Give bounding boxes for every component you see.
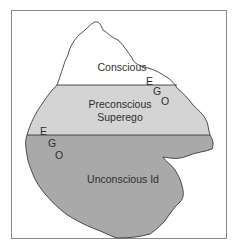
ego-right-letter-g: G	[153, 85, 161, 97]
ego-left-letter-e: E	[40, 125, 47, 137]
label-conscious: Conscious	[97, 61, 146, 73]
label-unconscious-id: Unconscious Id	[87, 173, 159, 185]
ego-right-letter-e: E	[146, 75, 153, 87]
label-superego: Superego	[97, 111, 143, 123]
iceberg-diagram	[0, 0, 238, 251]
label-preconscious: Preconscious	[88, 98, 151, 110]
ego-left-letter-g: G	[48, 137, 56, 149]
ego-left-letter-o: O	[55, 149, 63, 161]
ego-right-letter-o: O	[161, 95, 169, 107]
